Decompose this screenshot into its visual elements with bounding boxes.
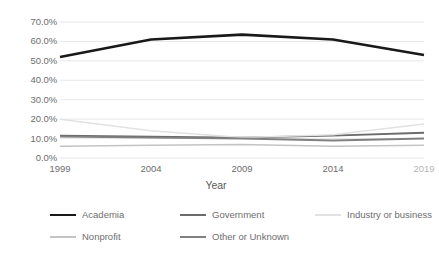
legend-item-label: Industry or business	[347, 209, 432, 221]
legend-color-swatch	[315, 214, 341, 216]
chart-legend: AcademiaGovernmentIndustry or businessNo…	[50, 208, 432, 252]
legend-item-label: Other or Unknown	[212, 231, 289, 243]
x-axis-tick-label: 2004	[129, 163, 173, 175]
legend-item-label: Academia	[82, 209, 124, 221]
x-axis-title: Year	[0, 179, 432, 191]
x-axis-tick-label: 2014	[311, 163, 355, 175]
x-axis-tick-label: 2019	[402, 163, 439, 175]
legend-item-academia[interactable]: Academia	[50, 208, 124, 222]
y-axis-tick-label: 60.0%	[11, 36, 57, 46]
x-axis-tick-labels: 19992004200920142019	[60, 163, 430, 179]
series-line-nonprofit	[60, 144, 424, 146]
legend-color-swatch	[180, 236, 206, 238]
x-axis-tick-label: 2009	[220, 163, 264, 175]
x-axis-tick-label: 1999	[38, 163, 82, 175]
legend-item-nonprofit[interactable]: Nonprofit	[50, 230, 121, 244]
y-axis-tick-label: 10.0%	[11, 134, 57, 144]
y-axis-tick-label: 0.0%	[11, 153, 57, 163]
data-series-group	[60, 35, 424, 147]
series-line-academia	[60, 35, 424, 57]
legend-item-government[interactable]: Government	[180, 208, 264, 222]
legend-item-industry-or-business[interactable]: Industry or business	[315, 208, 432, 222]
legend-item-label: Government	[212, 209, 264, 221]
legend-item-other-or-unknown[interactable]: Other or Unknown	[180, 230, 289, 244]
y-axis-tick-label: 20.0%	[11, 114, 57, 124]
legend-color-swatch	[180, 214, 206, 216]
legend-color-swatch	[50, 236, 76, 238]
y-axis-tick-label: 50.0%	[11, 56, 57, 66]
legend-color-swatch	[50, 214, 76, 216]
y-axis-tick-label: 40.0%	[11, 75, 57, 85]
legend-item-label: Nonprofit	[82, 231, 121, 243]
y-axis-tick-label: 70.0%	[11, 17, 57, 27]
y-axis-tick-label: 30.0%	[11, 95, 57, 105]
